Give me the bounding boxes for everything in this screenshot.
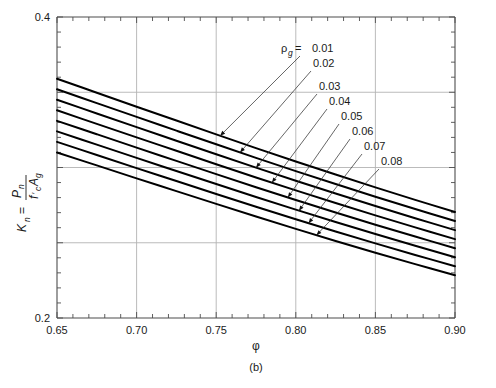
rho-subscript-g: g xyxy=(288,48,293,58)
y-axis-K-subscript: n xyxy=(22,217,32,222)
series-label: 0.08 xyxy=(381,155,402,167)
series-label: 0.06 xyxy=(352,125,373,137)
series-label: 0.04 xyxy=(329,95,350,107)
rho-equals-sign: = xyxy=(295,42,301,54)
x-tick-label: 0.80 xyxy=(285,324,306,336)
x-tick-label: 0.70 xyxy=(126,324,147,336)
y-axis-K: K xyxy=(15,223,29,232)
rho-symbol: ρ xyxy=(281,42,287,54)
y-axis-denominator-A: A xyxy=(27,178,41,187)
x-tick-label: 0.65 xyxy=(46,324,67,336)
y-tick-label: 0.4 xyxy=(35,11,50,23)
x-tick-label: 0.90 xyxy=(444,324,465,336)
panel-label: (b) xyxy=(249,361,262,373)
y-axis-equals: = xyxy=(15,207,29,214)
series-label: 0.05 xyxy=(341,110,362,122)
series-label: 0.02 xyxy=(313,57,334,69)
y-axis-numerator-subscript: n xyxy=(16,184,26,189)
y-tick-label: 0.2 xyxy=(35,312,50,324)
series-label: 0.01 xyxy=(312,42,333,54)
x-tick-label: 0.75 xyxy=(205,324,226,336)
figure-panel-b: 0.650.700.750.800.850.90 0.20.4 0.010.02… xyxy=(0,0,496,388)
series-label: 0.03 xyxy=(319,80,340,92)
y-axis-denominator-subscript-g: g xyxy=(33,173,43,178)
x-tick-label: 0.85 xyxy=(365,324,386,336)
y-axis-numerator-P: P xyxy=(10,190,24,198)
x-axis-title: φ xyxy=(252,339,260,353)
series-label: 0.07 xyxy=(364,140,385,152)
